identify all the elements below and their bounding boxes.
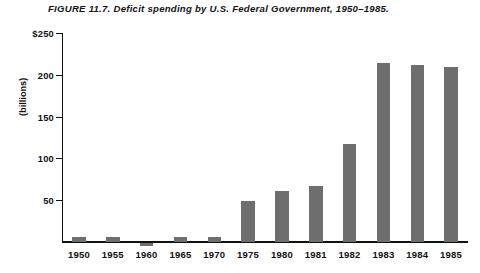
bar-1985 (444, 67, 458, 242)
bar-1965 (174, 237, 188, 241)
bar-1975 (241, 201, 255, 242)
bar-1982 (343, 144, 357, 242)
x-tick-label-1970: 1970 (197, 249, 231, 260)
y-tick-label-200: 200 (38, 70, 54, 81)
x-axis-line (62, 241, 468, 243)
bar-1970 (208, 237, 222, 242)
bar-1984 (411, 65, 425, 241)
x-tick-label-1981: 1981 (299, 249, 333, 260)
x-tick-label-1965: 1965 (164, 249, 198, 260)
y-tick-label-100: 100 (38, 153, 54, 164)
y-tick-label-150: 150 (38, 112, 54, 123)
x-tick-label-1985: 1985 (434, 249, 468, 260)
bar-1950 (72, 237, 86, 241)
x-tick-label-1950: 1950 (62, 249, 96, 260)
y-tick-label-50: 50 (43, 195, 54, 206)
x-tick-label-1983: 1983 (367, 249, 401, 260)
x-tick-label-1980: 1980 (265, 249, 299, 260)
x-tick-label-1955: 1955 (96, 249, 130, 260)
bar-1960 (140, 243, 154, 246)
bar-1955 (106, 237, 120, 242)
x-tick-label-1975: 1975 (231, 249, 265, 260)
bar-chart: (billions) $250 200 150 100 50 195019551… (0, 0, 480, 273)
bar-1981 (309, 186, 323, 242)
x-tick-label-1984: 1984 (400, 249, 434, 260)
y-axis-line (62, 33, 63, 242)
y-axis-title: (billions) (18, 102, 28, 116)
y-tick-label-250: $250 (32, 28, 54, 39)
x-tick-label-1960: 1960 (130, 249, 164, 260)
bar-1980 (275, 191, 289, 242)
bar-1983 (377, 63, 391, 242)
x-tick-label-1982: 1982 (333, 249, 367, 260)
